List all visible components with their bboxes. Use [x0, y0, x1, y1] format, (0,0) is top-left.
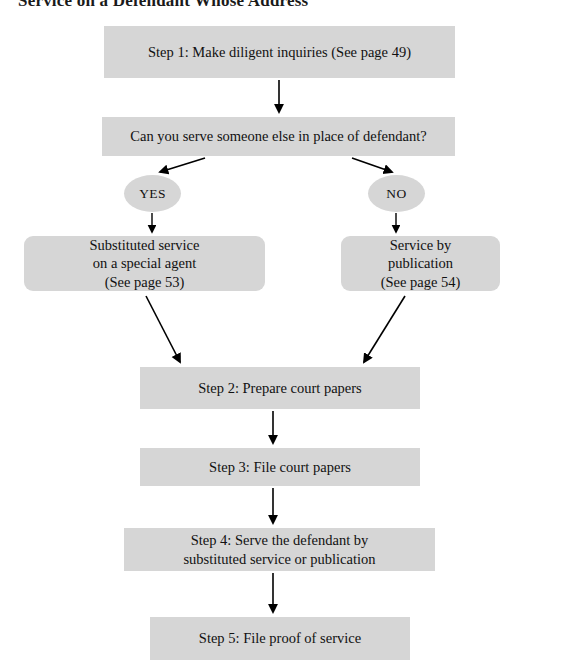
node-step5[interactable]: Step 5: File proof of service [150, 617, 410, 660]
node-substituted-service-label: Substituted service on a special agent (… [90, 236, 200, 292]
node-step2-label: Step 2: Prepare court papers [198, 379, 361, 398]
node-step3-label: Step 3: File court papers [209, 458, 351, 477]
node-step1[interactable]: Step 1: Make diligent inquiries (See pag… [104, 26, 455, 78]
connector-publication-step2 [364, 296, 405, 362]
connector-decision-no [352, 158, 392, 172]
node-no[interactable]: NO [368, 175, 425, 212]
node-decision-serve-someone-else[interactable]: Can you serve someone else in place of d… [102, 117, 455, 156]
node-decision-label: Can you serve someone else in place of d… [130, 127, 426, 146]
node-substituted-service[interactable]: Substituted service on a special agent (… [24, 236, 265, 291]
node-step4-label: Step 4: Serve the defendant by substitut… [183, 531, 375, 568]
flowchart-canvas: Service on a Defendant Whose Address Ste… [0, 0, 561, 669]
connector-decision-yes [160, 158, 205, 172]
connector-substituted-step2 [146, 296, 180, 362]
node-step1-label: Step 1: Make diligent inquiries (See pag… [148, 43, 411, 62]
node-step2[interactable]: Step 2: Prepare court papers [140, 367, 420, 409]
node-step3[interactable]: Step 3: File court papers [140, 448, 420, 486]
node-yes[interactable]: YES [124, 175, 181, 212]
node-yes-label: YES [139, 186, 166, 202]
node-service-by-publication[interactable]: Service by publication (See page 54) [341, 236, 500, 291]
node-no-label: NO [386, 186, 406, 202]
page-title: Service on a Defendant Whose Address [18, 0, 438, 11]
node-step5-label: Step 5: File proof of service [199, 629, 361, 648]
node-service-by-publication-label: Service by publication (See page 54) [381, 236, 461, 292]
node-step4[interactable]: Step 4: Serve the defendant by substitut… [124, 528, 435, 571]
